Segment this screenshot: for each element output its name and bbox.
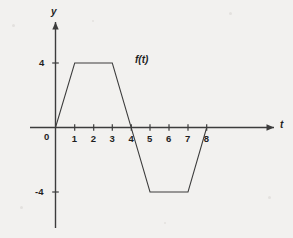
x-axis-label: t	[280, 120, 283, 130]
function-label: f(t)	[135, 55, 148, 65]
y-tick-label-4: 4	[39, 58, 44, 68]
x-tick-label-6: 6	[166, 134, 171, 144]
origin-label: 0	[44, 132, 49, 142]
x-axis-group	[30, 124, 274, 131]
x-tick-label-4: 4	[128, 134, 133, 144]
y-axis-label: y	[51, 7, 57, 17]
y-tick-label-neg4: -4	[35, 187, 43, 197]
x-tick-label-1: 1	[72, 134, 77, 144]
plot-canvas	[0, 0, 293, 238]
x-tick-label-7: 7	[185, 134, 190, 144]
x-tick-label-3: 3	[109, 134, 114, 144]
x-axis-arrow-icon	[267, 124, 275, 131]
x-tick-label-8: 8	[204, 134, 209, 144]
y-axis-group	[52, 22, 58, 228]
graph-figure: y t 0 f(t) 4 -4 1 2 3 4 5 6 7 8	[0, 0, 293, 238]
x-tick-label-5: 5	[147, 134, 152, 144]
x-tick-label-2: 2	[91, 134, 96, 144]
y-axis-arrow-icon	[52, 22, 58, 30]
